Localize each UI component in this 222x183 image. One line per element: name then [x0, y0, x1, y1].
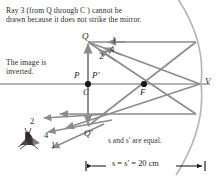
- bug-icon: [18, 128, 40, 149]
- note-ray3: Ray 3 (from Q through C ) cannot be draw…: [6, 6, 142, 25]
- ray-number-1-image: 1: [51, 140, 55, 150]
- label-point-P: P: [74, 70, 80, 80]
- diagram-canvas: [0, 0, 222, 183]
- ray-number-2-object: 2: [99, 51, 103, 61]
- mirror-ray-diagram: Ray 3 (from Q through C ) cannot be draw…: [0, 0, 222, 183]
- ray-number-4-object: 4: [110, 44, 114, 54]
- caption-s-equal: s and s′ are equal.: [108, 136, 162, 145]
- ray-number-2-image: 2: [30, 116, 34, 126]
- label-point-Q: Q: [82, 31, 89, 41]
- label-point-V: V: [205, 76, 211, 86]
- ray-number-4-image: 4: [44, 130, 48, 140]
- label-point-C: C: [83, 87, 89, 97]
- note-image-inverted: The image is inverted.: [6, 58, 62, 77]
- caption-dimension: s = s′ = 20 cm: [112, 159, 159, 168]
- label-point-P-prime: P′: [92, 70, 99, 80]
- ray-2: [60, 42, 196, 114]
- label-point-F: F: [140, 87, 146, 97]
- label-point-Q-prime: Q′: [84, 128, 92, 138]
